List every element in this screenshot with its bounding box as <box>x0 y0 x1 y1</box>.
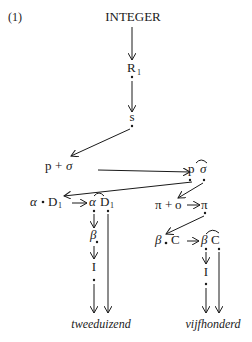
sigma-label: σ <box>66 158 73 173</box>
c-dot <box>218 248 220 250</box>
node-s: s <box>129 109 134 127</box>
r1-dot <box>131 76 133 78</box>
r1-subscript: 1 <box>137 68 141 77</box>
arrow-s-to-p-plus-sigma <box>71 129 130 156</box>
pi-label: π <box>155 197 162 212</box>
arrow-p-plus-sigma-to-p-sigma <box>98 170 190 172</box>
arrow-sigma-to-pi-plus-o <box>178 183 203 198</box>
root-integer-label: INTEGER <box>105 9 161 24</box>
d-joined-subscript: 1 <box>110 201 114 210</box>
node-p-plus-sigma: p + σ <box>45 158 73 173</box>
mult-dot <box>42 201 45 204</box>
p-dot <box>189 179 191 181</box>
node-p-sigma-joined: p σ <box>188 160 207 181</box>
sigma-dot <box>203 179 205 181</box>
node-beta-dot-c: β C <box>154 232 180 247</box>
d-subscript: 1 <box>58 201 62 210</box>
plus-label: + <box>165 197 172 212</box>
node-pi: π <box>201 197 208 214</box>
beta-dot <box>205 248 207 250</box>
node-beta-c-joined: β C <box>200 230 220 250</box>
sigma-joined-label: σ <box>200 161 207 176</box>
c-joined-label: C <box>211 232 220 247</box>
alpha-label: α <box>30 194 38 209</box>
node-alpha-d1-joined: α D 1 <box>89 193 114 212</box>
beta-joined-label: β <box>200 232 208 247</box>
derivation-diagram: (1) INTEGER R 1 s p + σ p σ α D <box>0 0 252 342</box>
s-dot <box>131 125 133 127</box>
plus-label: + <box>55 158 62 173</box>
figure-number: (1) <box>8 10 22 24</box>
i-right-label: I <box>204 264 208 279</box>
d-joined-label: D <box>100 194 109 209</box>
i-right-dot <box>205 283 207 285</box>
output-left-word: tweeduizend <box>71 317 131 331</box>
d-label: D <box>48 194 57 209</box>
beta-left-dot <box>96 241 98 243</box>
arrow-p-to-alpha-d1 <box>64 182 192 196</box>
node-r1: R 1 <box>127 60 141 78</box>
p-joined-label: p <box>188 161 195 176</box>
alpha-dot <box>93 210 95 212</box>
pi-result-label: π <box>201 197 208 212</box>
i-left-dot <box>93 279 95 281</box>
d1-dot <box>107 210 109 212</box>
s-label: s <box>129 109 134 124</box>
pi-dot <box>204 212 206 214</box>
node-i-left: I <box>92 259 96 281</box>
c-label: C <box>171 232 180 247</box>
i-left-label: I <box>92 259 96 274</box>
r1-main: R <box>127 60 136 75</box>
node-pi-plus-o: π + o <box>155 197 182 212</box>
alpha-joined-label: α <box>89 194 97 209</box>
node-alpha-dot-d1: α D 1 <box>30 194 62 210</box>
p-label: p <box>45 158 52 173</box>
node-i-right: I <box>204 264 208 285</box>
mult-dot <box>165 242 168 245</box>
o-label: o <box>175 197 182 212</box>
node-beta-left: β <box>89 227 98 243</box>
beta-label: β <box>154 232 162 247</box>
beta-left-label: β <box>89 227 97 242</box>
output-right-word: vijfhonderd <box>186 317 242 331</box>
